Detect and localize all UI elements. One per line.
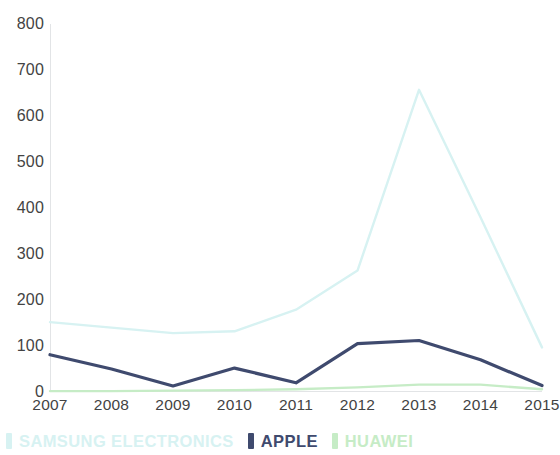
x-tick-label: 2012 [340,396,375,414]
x-tick-label: 2015 [524,396,559,414]
y-tick-label: 300 [17,245,44,263]
legend-label: APPLE [261,432,318,451]
y-tick-label: 700 [17,61,44,79]
y-tick-label: 100 [17,337,44,355]
legend-swatch-icon [248,433,254,449]
y-axis: 8007006005004003002001000 [0,24,44,392]
x-tick-label: 2013 [401,396,436,414]
series-lines [50,24,542,392]
legend-swatch-icon [332,433,338,449]
y-tick-label: 600 [17,107,44,125]
x-tick-label: 2011 [279,396,313,414]
series-line [50,385,542,391]
x-axis: 200720082009201020112012201320142015 [50,396,542,422]
plot-area [50,24,542,392]
y-tick-label: 800 [17,15,44,33]
legend-swatch-icon [6,433,12,449]
y-tick-label: 400 [17,199,44,217]
x-tick-label: 2009 [155,396,190,414]
legend-label: SAMSUNG ELECTRONICS [19,432,234,451]
legend-item[interactable]: HUAWEI [332,432,413,451]
x-tick-label: 2007 [32,396,67,414]
x-tick-label: 2014 [463,396,498,414]
chart-legend: SAMSUNG ELECTRONICSAPPLEHUAWEI [6,430,541,452]
series-line [50,340,542,386]
y-tick-label: 200 [17,291,44,309]
x-tick-label: 2008 [94,396,129,414]
series-line [50,90,542,348]
legend-label: HUAWEI [345,432,413,451]
x-tick-label: 2010 [217,396,252,414]
legend-item[interactable]: APPLE [248,432,318,451]
y-tick-label: 500 [17,153,44,171]
legend-item[interactable]: SAMSUNG ELECTRONICS [6,432,234,451]
